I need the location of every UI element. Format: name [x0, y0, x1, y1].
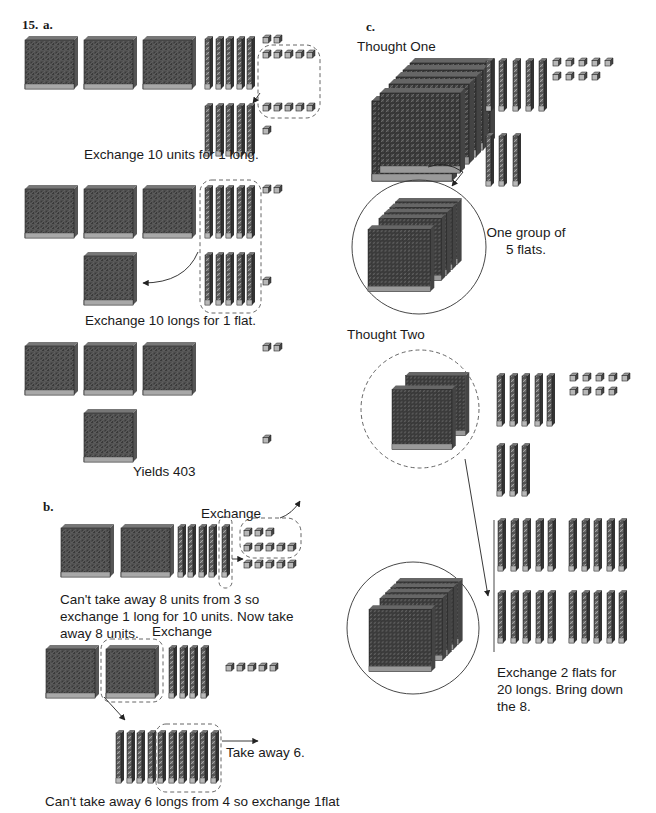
- part-b-step2-annotation: Exchange: [152, 623, 212, 640]
- arrow-units-to-long: [253, 93, 260, 103]
- dashed-group-8-units: [240, 518, 301, 558]
- part-b-step2-side-note: Take away 6.: [226, 744, 305, 761]
- thought-one-note: One group of 5 flats.: [486, 224, 566, 258]
- part-a-step2-blocks: [25, 180, 282, 313]
- part-a-step1-blocks: [25, 35, 320, 156]
- arrow-flats-to-longs: [465, 459, 488, 596]
- part-b-step1-blocks: [61, 501, 301, 588]
- stack-of-five-flats: [372, 58, 495, 181]
- problem-number: 15.: [22, 17, 38, 33]
- arrow-longs-to-flat: [143, 252, 198, 283]
- thought-one-title: Thought One: [357, 38, 436, 55]
- arrow-flat-to-longs: [104, 697, 125, 720]
- part-a-step3-caption: Yields 403: [133, 463, 196, 480]
- twenty-longs: [498, 518, 627, 643]
- part-b-step2-blocks: [46, 639, 278, 792]
- part-b-label: b.: [43, 499, 53, 515]
- part-b-step2-caption: Can't take away 6 longs from 4 so exchan…: [45, 793, 340, 810]
- part-a-label: a.: [43, 17, 53, 33]
- circled-five-flats: [368, 198, 462, 292]
- part-a-step3-blocks: [25, 342, 282, 462]
- part-c-thought-two-blocks: [347, 350, 630, 694]
- thought-two-title: Thought Two: [347, 326, 425, 343]
- part-c-label: c.: [366, 19, 375, 35]
- arrow-take-away-units: [280, 501, 300, 518]
- part-c-thought-one-blocks: [352, 58, 613, 314]
- part-a-step2-caption: Exchange 10 longs for 1 flat.: [85, 312, 256, 329]
- part-a-step1-caption: Exchange 10 units for 1 long.: [84, 146, 259, 163]
- thought-two-caption: Exchange 2 flats for 20 longs. Bring dow…: [497, 664, 627, 715]
- exchanged-ten-longs: [116, 730, 219, 783]
- part-b-step1-annotation: Exchange: [201, 505, 261, 522]
